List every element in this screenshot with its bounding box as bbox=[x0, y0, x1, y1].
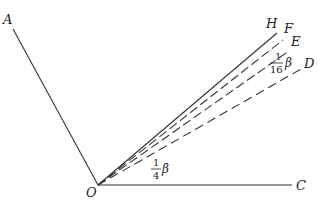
label-A: A bbox=[2, 12, 12, 27]
label-D: D bbox=[303, 56, 315, 71]
angle-label-quarter-beta: 1 4 β bbox=[151, 157, 169, 181]
sixteenth-numerator: 1 bbox=[275, 51, 281, 62]
ray-OE bbox=[98, 51, 289, 185]
label-H: H bbox=[265, 16, 278, 31]
ray-OA bbox=[13, 29, 98, 185]
label-E: E bbox=[290, 34, 301, 49]
angle-label-sixteenth-beta: 1 16 β bbox=[270, 51, 292, 75]
ray-OH bbox=[98, 33, 277, 185]
sixteenth-beta-symbol: β bbox=[284, 56, 292, 70]
label-O: O bbox=[86, 185, 97, 200]
ray-OF bbox=[98, 40, 283, 185]
quarter-numerator: 1 bbox=[153, 157, 159, 168]
label-C: C bbox=[296, 178, 306, 193]
quarter-beta-symbol: β bbox=[161, 162, 169, 176]
ray-OD bbox=[98, 69, 301, 185]
sixteenth-denominator: 16 bbox=[270, 64, 283, 75]
quarter-denominator: 4 bbox=[153, 170, 159, 181]
angle-diagram: A C H F E D O 1 4 β 1 16 β bbox=[0, 0, 324, 216]
